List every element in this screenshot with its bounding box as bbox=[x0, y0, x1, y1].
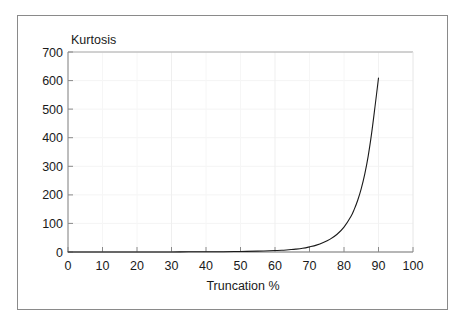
x-tick-label: 90 bbox=[372, 259, 386, 273]
y-tick-label: 0 bbox=[56, 246, 63, 260]
x-tick-label: 30 bbox=[165, 259, 179, 273]
grid-vertical bbox=[103, 52, 379, 252]
y-tick-label: 300 bbox=[42, 160, 63, 174]
x-tick-label: 100 bbox=[403, 259, 424, 273]
y-tick-label: 200 bbox=[42, 188, 63, 202]
x-tick-label: 50 bbox=[234, 259, 248, 273]
y-tick-labels: 0 100 200 300 400 500 600 700 bbox=[42, 46, 63, 260]
x-tick-label: 60 bbox=[268, 259, 282, 273]
y-tick-label: 400 bbox=[42, 131, 63, 145]
x-axis-label: Truncation % bbox=[206, 279, 279, 293]
x-tick-label: 80 bbox=[337, 259, 351, 273]
x-tick-label: 10 bbox=[96, 259, 110, 273]
y-tick-label: 600 bbox=[42, 74, 63, 88]
y-axis-ticks bbox=[68, 52, 73, 252]
chart-figure: 0 100 200 300 400 500 600 700 0 10 20 30… bbox=[0, 0, 465, 325]
y-tick-label: 500 bbox=[42, 103, 63, 117]
y-axis-label: Kurtosis bbox=[71, 33, 116, 47]
series-line-kurtosis bbox=[68, 78, 379, 252]
y-tick-label: 700 bbox=[42, 46, 63, 60]
plot-svg: 0 100 200 300 400 500 600 700 0 10 20 30… bbox=[0, 0, 465, 325]
y-tick-label: 100 bbox=[42, 217, 63, 231]
x-tick-label: 70 bbox=[303, 259, 317, 273]
x-tick-label: 20 bbox=[130, 259, 144, 273]
x-tick-labels: 0 10 20 30 40 50 60 70 80 90 100 bbox=[65, 259, 424, 273]
x-tick-label: 40 bbox=[199, 259, 213, 273]
x-tick-label: 0 bbox=[65, 259, 72, 273]
